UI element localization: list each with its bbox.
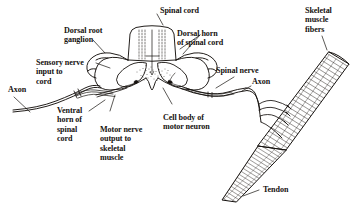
anatomical-diagram: Spinal cord Dorsal root ganglion Dorsal … [0, 0, 353, 207]
label-motor-nerve-output: Motor nerve output to skeletal muscle [100, 125, 142, 163]
label-spinal-nerve: Spinal nerve [216, 66, 258, 75]
label-dorsal-horn: Dorsal horn of spinal cord [177, 29, 223, 48]
central-canal-marker [146, 30, 159, 75]
dorsal-root-right [176, 53, 217, 78]
gray-matter-left [117, 62, 147, 86]
node-marker-right [208, 92, 212, 98]
dorsal-root-ganglion-shape [87, 53, 128, 78]
label-skeletal-muscle-fibers: Skeletal muscle fibers [305, 6, 332, 34]
label-spinal-cord: Spinal cord [160, 6, 199, 15]
label-axon-left: Axon [8, 85, 26, 94]
label-axon-right: Axon [252, 77, 270, 86]
tendon-body [222, 146, 286, 203]
leader-lines [14, 14, 327, 196]
gray-matter-right [158, 62, 188, 86]
label-tendon: Tendon [263, 185, 288, 194]
label-sensory-nerve-input: Sensory nerve input to cord [36, 58, 84, 86]
label-dorsal-root-ganglion: Dorsal root ganglion [64, 26, 102, 45]
nerve-to-muscle [246, 88, 261, 122]
label-cell-body: Cell body of motor neuron [163, 113, 210, 132]
skeletal-muscle-body [256, 50, 349, 155]
label-ventral-horn: Ventral horn of spinal cord [57, 106, 82, 144]
